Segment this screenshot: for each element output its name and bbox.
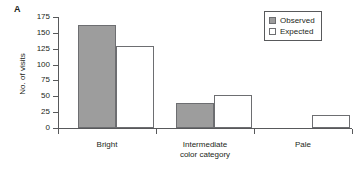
x-axis-line: [58, 128, 352, 129]
x-group-label-intermediate: Intermediate: [156, 140, 254, 149]
legend-label-observed: Observed: [280, 17, 315, 25]
legend-entry-expected: Expected: [269, 26, 315, 37]
bar-observed-bright: [78, 25, 116, 128]
figure-panel: A No. of visits 175 150 125 100 75 50 25…: [0, 0, 363, 176]
y-tick-label-150: 150: [18, 29, 50, 37]
bar-expected-pale: [312, 115, 350, 128]
x-group-label-pale: Pale: [254, 140, 352, 149]
y-tick-label-175: 175: [18, 13, 50, 21]
x-tick-mark: [156, 129, 157, 134]
y-tick-label-50: 50: [18, 92, 50, 100]
y-tick-label-0: 0: [18, 124, 50, 132]
x-tick-mark: [352, 129, 353, 134]
x-tick-mark: [58, 129, 59, 134]
y-tick-label-25: 25: [18, 108, 50, 116]
x-group-label-bright: Bright: [58, 140, 156, 149]
legend-swatch-observed-icon: [269, 17, 276, 24]
x-axis-title: color category: [156, 150, 254, 159]
y-tick-label-75: 75: [18, 76, 50, 84]
bar-expected-intermediate: [214, 95, 252, 128]
y-tick-label-100: 100: [18, 61, 50, 69]
legend-label-expected: Expected: [280, 28, 313, 36]
x-tick-mark: [254, 129, 255, 134]
y-tick-label-125: 125: [18, 45, 50, 53]
bar-observed-intermediate: [176, 103, 214, 128]
legend: Observed Expected: [264, 11, 322, 41]
bar-expected-bright: [116, 46, 154, 128]
legend-entry-observed: Observed: [269, 15, 315, 26]
legend-swatch-expected-icon: [269, 28, 276, 35]
